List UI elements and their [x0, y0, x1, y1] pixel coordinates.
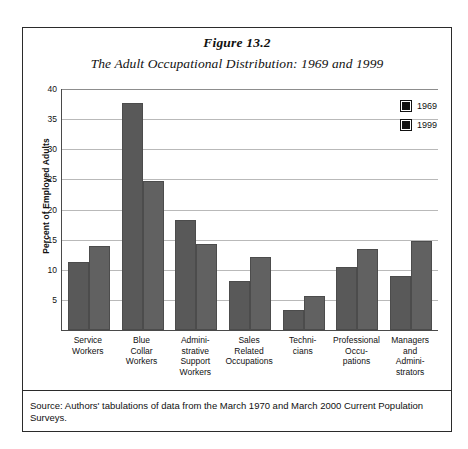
bar-1969[interactable] [336, 267, 357, 330]
x-axis-label: ProfessionalOccu-pations [330, 335, 384, 377]
x-axis-label-line: Techni- [276, 335, 330, 346]
x-axis-label-line: Admini- [383, 356, 437, 367]
legend-label: 1999 [417, 120, 437, 130]
bar-1999[interactable] [357, 249, 378, 330]
x-axis-label-line: strative [168, 346, 222, 357]
y-tick-label: 35 [48, 114, 57, 124]
legend-swatch-icon [401, 101, 411, 111]
bar-group [229, 89, 271, 330]
legend-label: 1969 [417, 101, 437, 111]
x-axis-label-line: Collar [115, 346, 169, 357]
y-axis-title: Percent of Employed Adults [41, 111, 51, 281]
x-axis-label-line: Workers [115, 356, 169, 367]
chart-legend: 19691999 [401, 101, 437, 130]
y-tick-label: 40 [48, 84, 57, 94]
chart-area: Percent of Employed Adults 0510152025303… [23, 83, 453, 391]
source-note: Source: Authors' tabulations of data fro… [30, 400, 444, 423]
y-tick-label: 15 [48, 235, 57, 245]
legend-item[interactable]: 1969 [401, 101, 437, 111]
x-axis-label-line: Workers [168, 367, 222, 378]
figure-frame: Figure 13.2 The Adult Occupational Distr… [22, 27, 452, 432]
x-axis-label: Admini-strativeSupportWorkers [168, 335, 222, 377]
x-axis-label-line: cians [276, 346, 330, 357]
bar-group [68, 89, 110, 330]
x-axis-label: ManagersandAdmini-strators [383, 335, 437, 377]
bar-1999[interactable] [143, 181, 164, 330]
x-axis-label-line: Support [168, 356, 222, 367]
x-axis-label-line: pations [330, 356, 384, 367]
bar-1969[interactable] [229, 281, 250, 330]
bar-1969[interactable] [68, 262, 89, 330]
y-tick-label: 10 [48, 265, 57, 275]
legend-item[interactable]: 1999 [401, 120, 437, 130]
x-axis-label-line: Occu- [330, 346, 384, 357]
x-axis-label-line: Occupations [222, 356, 276, 367]
x-axis-label: Techni-cians [276, 335, 330, 377]
source-divider [23, 390, 451, 391]
bar-group [283, 89, 325, 330]
figure-subtitle: The Adult Occupational Distribution: 196… [23, 56, 451, 72]
x-axis-label-line: Related [222, 346, 276, 357]
figure-number: Figure 13.2 [23, 35, 451, 51]
bar-group [122, 89, 164, 330]
x-axis-label-line: Workers [61, 346, 115, 357]
x-axis-labels: ServiceWorkersBlueCollarWorkersAdmini-st… [61, 335, 437, 377]
plot-area: 0510152025303540 [61, 89, 438, 331]
bars-layer [62, 89, 438, 330]
bar-1969[interactable] [390, 276, 411, 330]
bar-group [175, 89, 217, 330]
x-axis-label-line: Blue [115, 335, 169, 346]
bar-1999[interactable] [89, 246, 110, 330]
bar-1999[interactable] [411, 241, 432, 330]
figure-title-block: Figure 13.2 The Adult Occupational Distr… [23, 35, 451, 72]
bar-1969[interactable] [122, 103, 143, 330]
bar-group [336, 89, 378, 330]
legend-swatch-icon [401, 120, 411, 130]
y-tick-label: 20 [48, 205, 57, 215]
bar-1969[interactable] [175, 220, 196, 330]
x-axis-label: SalesRelatedOccupations [222, 335, 276, 377]
bar-1999[interactable] [250, 257, 271, 331]
y-tick-label: 25 [48, 174, 57, 184]
x-axis-label-line: Sales [222, 335, 276, 346]
x-axis-label-line: Managers [383, 335, 437, 346]
y-tick-label: 30 [48, 144, 57, 154]
x-axis-label-line: Professional [330, 335, 384, 346]
x-axis-label-line: Admini- [168, 335, 222, 346]
bar-1969[interactable] [283, 310, 304, 330]
y-tick-label: 5 [52, 295, 57, 305]
x-axis-label: ServiceWorkers [61, 335, 115, 377]
bar-1999[interactable] [196, 244, 217, 330]
bar-1999[interactable] [304, 296, 325, 330]
x-axis-label: BlueCollarWorkers [115, 335, 169, 377]
x-axis-label-line: strators [383, 367, 437, 378]
x-axis-label-line: and [383, 346, 437, 357]
x-axis-label-line: Service [61, 335, 115, 346]
